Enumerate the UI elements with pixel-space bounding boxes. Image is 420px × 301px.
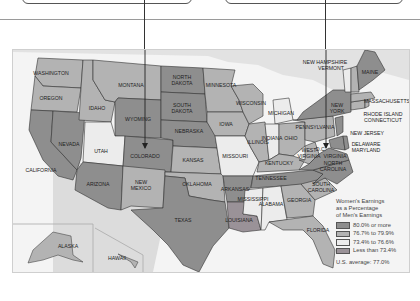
callout-box-right bbox=[225, 0, 403, 4]
label-idaho: IDAHO bbox=[89, 105, 105, 111]
legend-item: 76.7% to 79.9% bbox=[336, 230, 406, 239]
label-indiana: INDIANA bbox=[261, 135, 283, 141]
label-oklahoma: OKLAHOMA bbox=[182, 181, 212, 187]
label-colorado: COLORADO bbox=[130, 153, 160, 159]
label-montana: MONTANA bbox=[118, 82, 144, 88]
label-vermont: VERMONT bbox=[318, 65, 345, 71]
divider-line bbox=[0, 19, 420, 20]
label-georgia: GEORGIA bbox=[287, 197, 312, 203]
label-tennessee: TENNESSEE bbox=[255, 175, 287, 181]
label-missouri: MISSOURI bbox=[222, 153, 248, 159]
map-legend: Women's Earnings as a Percentage of Men'… bbox=[336, 198, 406, 266]
label-hawaii: HAWAII bbox=[108, 255, 126, 261]
label-texas: TEXAS bbox=[174, 217, 192, 223]
legend-title-line-3: of Men's Earnings bbox=[336, 212, 406, 219]
label-new-hampshire: NEW HAMPSHIRE bbox=[303, 59, 348, 65]
pointer-line-top-left bbox=[144, 0, 145, 49]
us-average: U.S. average: 77.0% bbox=[336, 259, 406, 266]
label-maine: MAINE bbox=[362, 69, 379, 75]
label-south-carolina-2: CAROLINA bbox=[308, 187, 335, 193]
label-arizona: ARIZONA bbox=[86, 181, 110, 187]
state-montana bbox=[93, 60, 161, 102]
label-arkansas: ARKANSAS bbox=[221, 186, 250, 192]
legend-swatch bbox=[336, 222, 350, 229]
label-dc: D.C. bbox=[316, 146, 326, 152]
label-ohio: OHIO bbox=[284, 135, 297, 141]
label-kentucky: KENTUCKY bbox=[265, 160, 294, 166]
legend-label: 80.0% or more bbox=[353, 222, 391, 229]
label-iowa: IOWA bbox=[219, 121, 233, 127]
label-oregon: OREGON bbox=[39, 95, 62, 101]
label-florida: FLORIDA bbox=[307, 227, 330, 233]
label-south-dakota-2: DAKOTA bbox=[172, 108, 193, 114]
label-california: CALIFORNIA bbox=[25, 167, 57, 173]
legend-swatch bbox=[336, 248, 350, 255]
legend-title-line-1: Women's Earnings bbox=[336, 198, 406, 205]
callout-box-left bbox=[22, 0, 192, 4]
legend-label: 73.4% to 76.6% bbox=[353, 239, 394, 246]
label-minnesota: MINNESOTA bbox=[206, 82, 237, 88]
legend-label: Less than 73.4% bbox=[353, 247, 396, 254]
legend-label: 76.7% to 79.9% bbox=[353, 230, 394, 237]
legend-item: Less than 73.4% bbox=[336, 247, 406, 256]
label-new-york-2: YORK bbox=[330, 108, 345, 114]
label-nebraska: NEBRASKA bbox=[175, 128, 204, 134]
label-wisconsin: WISCONSIN bbox=[236, 100, 266, 106]
label-new-mexico-2: MEXICO bbox=[131, 185, 151, 191]
label-michigan: MICHIGAN bbox=[268, 110, 294, 116]
label-massachusetts: MASSACHUSETTS bbox=[364, 98, 409, 104]
legend-title: Women's Earnings as a Percentage of Men'… bbox=[336, 198, 406, 219]
legend-swatch bbox=[336, 239, 350, 246]
pointer-line-top-right bbox=[325, 0, 326, 49]
label-rhode-island: RHODE ISLAND bbox=[364, 111, 403, 117]
label-kansas: KANSAS bbox=[182, 157, 204, 163]
legend-item: 73.4% to 76.6% bbox=[336, 238, 406, 247]
legend-swatch bbox=[336, 231, 350, 238]
label-utah: UTAH bbox=[94, 148, 108, 154]
label-north-dakota-2: DAKOTA bbox=[172, 80, 193, 86]
label-virginia: VIRGINIA bbox=[324, 153, 347, 159]
label-pennsylvania: PENNSYLVANIA bbox=[295, 124, 335, 130]
label-west-virginia-2: VIRGINIA bbox=[298, 153, 321, 159]
label-washington: WASHINGTON bbox=[33, 70, 69, 76]
label-alaska: ALASKA bbox=[58, 243, 79, 249]
label-wyoming: WYOMING bbox=[125, 116, 151, 122]
legend-title-line-2: as a Percentage bbox=[336, 205, 406, 212]
label-louisiana: LOUISIANA bbox=[225, 217, 253, 223]
label-alabama: ALABAMA bbox=[259, 201, 284, 207]
label-north-carolina-2: CAROLINA bbox=[320, 166, 347, 172]
label-nevada: NEVADA bbox=[59, 141, 80, 147]
label-new-jersey: NEW JERSEY bbox=[350, 130, 384, 136]
label-connecticut: CONNECTICUT bbox=[364, 117, 403, 123]
label-maryland: MARYLAND bbox=[352, 147, 381, 153]
legend-item: 80.0% or more bbox=[336, 221, 406, 230]
